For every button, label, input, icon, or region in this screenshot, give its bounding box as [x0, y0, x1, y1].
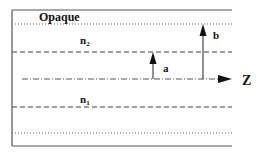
waveguide-diagram: Opaque n2 n1 a b Z: [0, 0, 262, 153]
z-axis-arrowhead-icon: [218, 75, 232, 83]
n2-label: n2: [80, 34, 90, 48]
b-label: b: [213, 29, 219, 41]
opaque-label: Opaque: [39, 10, 80, 24]
n1-label: n1: [80, 93, 90, 107]
arrow-a-head-icon: [150, 52, 157, 64]
a-label: a: [163, 62, 169, 74]
arrow-b-head-icon: [200, 24, 207, 36]
z-axis-label: Z: [242, 73, 251, 88]
